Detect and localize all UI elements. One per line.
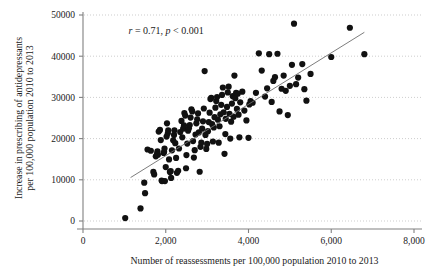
data-point: [259, 68, 265, 74]
data-point: [182, 112, 188, 118]
data-point: [236, 134, 242, 140]
data-point: [256, 50, 262, 56]
data-point: [199, 126, 205, 132]
data-point: [307, 71, 313, 77]
scatter-points: [122, 21, 367, 222]
data-point: [164, 120, 170, 126]
data-point: [269, 99, 275, 105]
data-point: [165, 127, 171, 133]
data-point: [243, 117, 249, 123]
data-point: [202, 68, 208, 74]
data-point: [175, 168, 181, 174]
data-point: [219, 92, 225, 98]
data-point: [291, 21, 297, 27]
data-point: [187, 122, 193, 128]
data-point: [245, 135, 251, 141]
data-point: [122, 215, 128, 221]
data-point: [187, 114, 193, 120]
data-point: [163, 164, 169, 170]
gridlines: [84, 15, 422, 221]
data-point: [239, 89, 245, 95]
data-point: [281, 72, 287, 78]
data-point: [220, 84, 226, 90]
y-axis-title-line2: per 100,000 population 2010 to 2013: [24, 45, 35, 190]
data-point: [191, 154, 197, 160]
data-point: [183, 165, 189, 171]
x-tick-label-2000: 2,000: [155, 236, 177, 246]
data-point: [168, 175, 174, 181]
data-point: [216, 140, 222, 146]
data-point: [179, 134, 185, 140]
data-point: [289, 62, 295, 68]
data-point: [137, 205, 143, 211]
y-tick-label-30000: 30000: [51, 93, 75, 103]
y-tick-label-10000: 10000: [51, 175, 75, 185]
data-point: [301, 86, 307, 92]
data-point: [141, 180, 147, 186]
y-tick-label-0: 0: [70, 216, 75, 226]
data-point: [272, 74, 278, 80]
data-point: [218, 102, 224, 108]
data-point: [173, 155, 179, 161]
data-point: [197, 169, 203, 175]
data-point: [229, 100, 235, 106]
data-point: [222, 131, 228, 137]
x-axis-title: Number of reassessments per 100,000 popu…: [131, 255, 379, 266]
data-point: [212, 105, 218, 111]
regression-line: [131, 32, 365, 177]
data-point: [183, 152, 189, 158]
data-point: [225, 89, 231, 95]
data-point: [158, 137, 164, 143]
data-point: [171, 127, 177, 133]
y-axis-title-line1: Increase in prescribing of antidepressan…: [13, 37, 24, 199]
x-tick-label-6000: 6,000: [321, 236, 343, 246]
data-point: [283, 88, 289, 94]
y-tick-label-20000: 20000: [51, 134, 75, 144]
x-tick-label-8000: 8,000: [403, 236, 425, 246]
data-point: [227, 136, 233, 142]
data-point: [231, 72, 237, 78]
data-point: [192, 147, 198, 153]
data-point: [200, 118, 206, 124]
data-point: [157, 127, 163, 133]
x-axis-ticks: [83, 229, 414, 233]
y-axis-ticks: [79, 15, 83, 221]
data-point: [166, 156, 172, 162]
data-point: [287, 83, 293, 89]
data-point: [194, 116, 200, 122]
x-axis-tick-labels: 02,0004,0006,0008,000: [81, 236, 425, 246]
x-tick-label-0: 0: [81, 236, 86, 246]
data-point: [237, 99, 243, 105]
data-point: [198, 140, 204, 146]
data-point: [204, 141, 210, 147]
data-point: [207, 110, 213, 116]
data-point: [295, 75, 301, 81]
y-tick-label-50000: 50000: [51, 10, 75, 20]
data-point: [155, 152, 161, 158]
data-point: [151, 171, 157, 177]
data-point: [276, 108, 282, 114]
data-point: [142, 190, 148, 196]
data-point: [293, 81, 299, 87]
data-point: [264, 85, 270, 91]
data-point: [168, 168, 174, 174]
scatter-plot-figure: 01000020000300004000050000 02,0004,0006,…: [0, 0, 426, 273]
data-point: [226, 84, 232, 90]
data-point: [274, 51, 280, 57]
chart-canvas: 01000020000300004000050000 02,0004,0006,…: [0, 0, 426, 273]
y-axis-tick-labels: 01000020000300004000050000: [51, 10, 75, 226]
data-point: [189, 108, 195, 114]
y-tick-label-40000: 40000: [51, 52, 75, 62]
data-point: [235, 112, 241, 118]
data-point: [361, 51, 367, 57]
data-point: [253, 90, 259, 96]
data-point: [299, 61, 305, 67]
data-point: [328, 54, 334, 60]
data-point: [195, 110, 201, 116]
data-point: [210, 138, 216, 144]
data-point: [347, 25, 353, 31]
data-point: [266, 51, 272, 57]
data-point: [201, 105, 207, 111]
data-point: [161, 145, 167, 151]
axes: [77, 12, 422, 233]
